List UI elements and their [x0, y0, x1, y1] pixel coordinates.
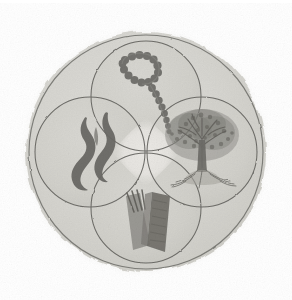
figure-root: Four-symbol circular emblem — [0, 0, 292, 300]
grain-overlay — [22, 28, 270, 276]
emblem-illustration — [0, 0, 292, 300]
